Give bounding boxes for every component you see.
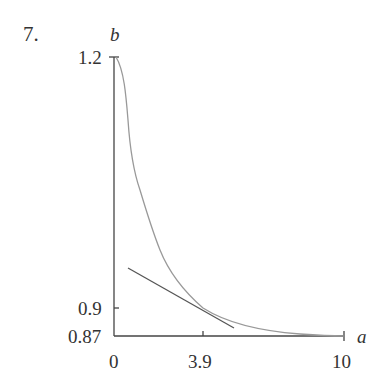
chart: 7. b a 1.2 0.9 0.87 0 3.9 10 (0, 0, 382, 378)
curve (116, 57, 344, 336)
plot-area (0, 0, 382, 378)
tangent-line (128, 268, 234, 328)
